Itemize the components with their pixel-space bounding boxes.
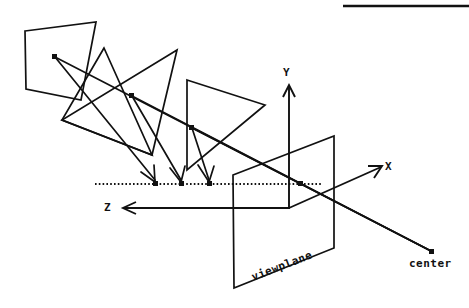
sight-ray-3 bbox=[192, 128, 431, 251]
diagram-canvas: Y X Z center viewplane bbox=[0, 0, 469, 308]
projector-1-arrowhead bbox=[141, 165, 155, 182]
baseline-dot-3 bbox=[207, 181, 212, 186]
triangle-middle bbox=[62, 50, 177, 155]
z-axis-label: Z bbox=[104, 202, 111, 213]
source-quad bbox=[25, 22, 96, 100]
x-axis-label: X bbox=[385, 161, 392, 172]
baseline-dot-4 bbox=[298, 181, 303, 186]
projector-1 bbox=[55, 57, 155, 180]
y-axis-label: Y bbox=[283, 67, 290, 78]
triangle-left bbox=[62, 48, 152, 155]
center-of-projection-dot bbox=[429, 249, 434, 254]
vertex-dot-triangle bbox=[129, 93, 134, 98]
center-label: center bbox=[409, 258, 452, 269]
triangle-right bbox=[187, 80, 265, 170]
vertex-dot-quad bbox=[52, 54, 57, 59]
baseline-dot-1 bbox=[153, 181, 158, 186]
vertex-dot-triangle-right bbox=[189, 125, 194, 130]
viewplane-projection-figure bbox=[0, 0, 469, 308]
baseline-dot-2 bbox=[179, 181, 184, 186]
